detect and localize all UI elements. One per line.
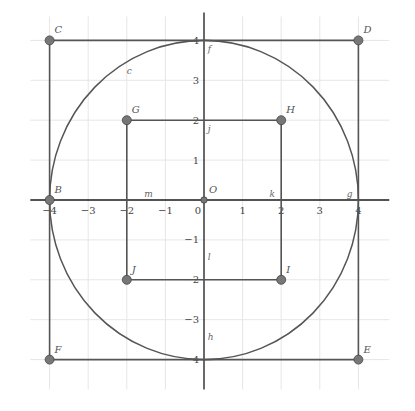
y-tick-label: 3: [193, 75, 199, 86]
point-B: [45, 196, 54, 205]
point-F: [45, 355, 54, 364]
point-label-H: H: [285, 104, 295, 115]
point-C: [45, 36, 54, 45]
x-tick-label: −3: [81, 205, 96, 216]
x-tick-label: 1: [239, 205, 245, 216]
point-D: [354, 36, 363, 45]
geometry-canvas: −4−3−2−1012344321−1−2−3−4 cfjlhmkg CDEFB…: [0, 0, 415, 411]
point-label-B: B: [54, 184, 62, 195]
point-G: [122, 116, 131, 125]
point-H: [277, 116, 286, 125]
x-tick-label: 0: [195, 205, 201, 216]
point-label-J: J: [130, 264, 137, 275]
point-label-E: E: [362, 344, 371, 355]
point-label-D: D: [362, 24, 371, 35]
segment-label-m: m: [144, 189, 153, 199]
circle-label: c: [127, 66, 132, 76]
point-label-I: I: [285, 264, 291, 275]
point-J: [122, 275, 131, 284]
point-O: [201, 197, 207, 203]
point-label-O: O: [209, 184, 217, 195]
y-tick-label: −1: [184, 234, 199, 245]
segment-label-k: k: [270, 189, 275, 199]
x-tick-label: 3: [317, 205, 323, 216]
x-tick-label: −1: [158, 205, 173, 216]
y-tick-label: 1: [193, 155, 199, 166]
point-label-G: G: [132, 104, 140, 115]
segment-label-f: f: [207, 44, 213, 54]
segment-label-g: g: [347, 189, 353, 199]
y-tick-label: −3: [184, 314, 199, 325]
point-label-C: C: [55, 24, 63, 35]
segment-label-l: l: [208, 252, 211, 262]
segment-label-h: h: [208, 332, 214, 342]
point-I: [277, 275, 286, 284]
segment-labels: cfjlhmkg: [127, 44, 353, 341]
segment-label-j: j: [206, 124, 211, 134]
point-label-F: F: [54, 344, 63, 355]
point-E: [354, 355, 363, 364]
